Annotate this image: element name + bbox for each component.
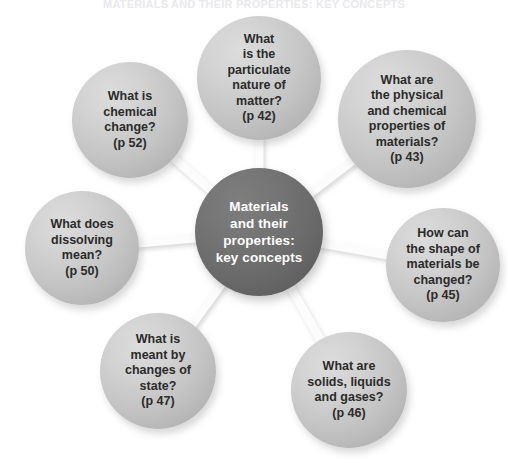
node-solids-liquids-gases-label: What are solids, liquids and gases? (p 4… xyxy=(291,359,407,421)
node-shape-changed[interactable]: How can the shape of materials be change… xyxy=(386,208,500,322)
node-changes-of-state-label: What is meant by changes of state? (p 47… xyxy=(100,332,216,410)
connector-chemical-change xyxy=(171,155,214,192)
connector-dissolving xyxy=(135,237,199,243)
node-shape-changed-label: How can the shape of materials be change… xyxy=(386,226,500,304)
node-dissolving-label: What does dissolving mean? (p 50) xyxy=(25,217,139,279)
center-node-label: Materials and their properties: key conc… xyxy=(195,198,323,266)
node-chemical-change-label: What is chemical change? (p 52) xyxy=(72,89,188,151)
node-physical-chemical-properties-label: What are the physical and chemical prope… xyxy=(338,73,476,166)
center-node[interactable]: Materials and their properties: key conc… xyxy=(195,168,323,296)
node-chemical-change[interactable]: What is chemical change? (p 52) xyxy=(72,62,188,178)
node-changes-of-state[interactable]: What is meant by changes of state? (p 47… xyxy=(100,313,216,429)
node-dissolving[interactable]: What does dissolving mean? (p 50) xyxy=(25,191,139,305)
node-physical-chemical-properties[interactable]: What are the physical and chemical prope… xyxy=(338,50,476,188)
node-particulate-nature-label: What is the particulate nature of matter… xyxy=(197,32,321,125)
connector-shape-changed xyxy=(318,243,391,256)
connector-solids-liquids-gases xyxy=(289,284,323,343)
connector-changes-of-state xyxy=(190,281,224,328)
node-solids-liquids-gases[interactable]: What are solids, liquids and gases? (p 4… xyxy=(291,332,407,448)
node-particulate-nature[interactable]: What is the particulate nature of matter… xyxy=(197,16,321,140)
diagram-canvas: MATERIALS AND THEIR PROPERTIES: KEY CONC… xyxy=(0,0,508,463)
